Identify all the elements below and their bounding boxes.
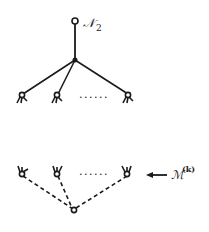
leaf-node-icon bbox=[17, 92, 27, 103]
dashed-edge-1 bbox=[23, 176, 73, 209]
root-label-subscript: 2 bbox=[96, 23, 102, 33]
leaf-node-icon bbox=[52, 92, 62, 103]
inverted-leaf-node-icon bbox=[122, 166, 131, 177]
left-arrow-icon bbox=[146, 172, 167, 178]
bottom-node-icon bbox=[71, 207, 76, 212]
lower-ellipsis: ...... bbox=[79, 165, 109, 178]
dashed-edge-n bbox=[76, 176, 127, 208]
root-node-icon bbox=[72, 18, 78, 24]
inverted-leaf-node-icon bbox=[53, 166, 62, 177]
group-label-superscript: (k) bbox=[182, 164, 195, 174]
lower-group: ...... ℳ (k) bbox=[18, 164, 195, 213]
diagram-canvas: 𝒩 2 ...... ...... bbox=[0, 0, 209, 232]
upper-tree: 𝒩 2 ...... bbox=[17, 16, 133, 103]
upper-ellipsis: ...... bbox=[79, 88, 109, 101]
center-node-icon bbox=[73, 58, 78, 63]
leaf-node-icon bbox=[123, 92, 133, 103]
inverted-leaf-node-icon bbox=[18, 166, 28, 177]
